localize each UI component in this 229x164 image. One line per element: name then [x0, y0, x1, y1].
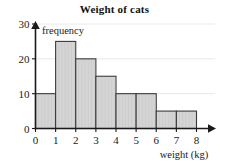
- y-tick-label: 20: [19, 53, 31, 65]
- x-axis-label: weight (kg): [160, 149, 209, 161]
- x-tick-label: 5: [133, 134, 139, 146]
- x-tick-label: 3: [93, 134, 99, 146]
- y-axis-arrow-icon: [31, 21, 40, 29]
- bars-group: [36, 41, 197, 128]
- x-axis-ticks: 012345678: [33, 129, 200, 146]
- x-tick-label: 2: [73, 134, 79, 146]
- x-tick-label: 0: [33, 134, 39, 146]
- x-tick-label: 8: [194, 134, 200, 146]
- x-tick-label: 1: [53, 134, 59, 146]
- x-axis-arrow-icon: [208, 124, 216, 133]
- y-tick-label: 0: [24, 123, 30, 135]
- y-axis-ticks: 0102030: [19, 18, 36, 135]
- y-tick-label: 30: [19, 18, 31, 30]
- y-axis-label: frequency: [42, 25, 85, 36]
- histogram-chart: Weight of cats 0102030 012345678 frequen…: [0, 0, 229, 164]
- x-tick-label: 6: [154, 134, 160, 146]
- chart-plot-area: 0102030 012345678 frequency weight (kg): [0, 0, 229, 164]
- x-tick-label: 4: [113, 134, 119, 146]
- y-tick-label: 10: [19, 88, 31, 100]
- x-tick-label: 7: [174, 134, 180, 146]
